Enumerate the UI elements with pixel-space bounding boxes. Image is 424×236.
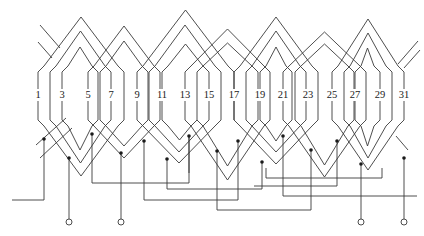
coil-end-connections-bottom [38, 120, 404, 180]
junction-dot-2 [90, 132, 94, 136]
coil-bottom-8 [185, 120, 270, 180]
stub-line-0 [40, 25, 60, 48]
coil-top-5 [137, 10, 234, 120]
coil-bottom-1 [50, 120, 111, 163]
terminal-1 [118, 219, 124, 225]
coil-top-11 [246, 31, 306, 120]
stub-line-3 [404, 50, 420, 68]
junction-dot-9 [260, 160, 264, 164]
slot-label: 19 [254, 89, 267, 101]
slot-label: 13 [179, 89, 192, 101]
junction-dot-5 [165, 157, 169, 161]
terminals [66, 219, 407, 225]
phase-leads [12, 134, 417, 222]
lead-wire-6 [217, 150, 311, 210]
coil-bottom-10 [234, 120, 318, 164]
slot-label: 27 [349, 89, 362, 101]
slot-label: 3 [58, 89, 65, 101]
slot-label: 5 [84, 89, 91, 101]
coil-bottom-9 [197, 120, 258, 166]
coil-bottom-12 [260, 120, 292, 141]
coil-bottom-6 [149, 120, 209, 152]
stub-line-1 [38, 42, 52, 58]
slot-label: 21 [277, 89, 290, 101]
junction-dot-8 [236, 139, 240, 143]
slot-label: 25 [326, 89, 339, 101]
junction-dot-11 [309, 148, 313, 152]
slot-label: 17 [228, 89, 241, 101]
lead-wire-4 [144, 141, 238, 200]
coil-top-2 [62, 47, 98, 120]
slot-label: 29 [374, 89, 387, 101]
winding-diagram [0, 0, 424, 236]
coil-top-15 [332, 19, 404, 120]
junction-dot-4 [142, 139, 146, 143]
junction-dot-6 [187, 134, 191, 138]
coil-bottom-7 [162, 120, 197, 140]
junction-dot-3 [119, 151, 123, 155]
terminal-2 [358, 219, 364, 225]
junction-dot-10 [281, 134, 285, 138]
coil-top-10 [234, 17, 318, 120]
terminal-0 [66, 219, 72, 225]
lead-wire-0 [12, 139, 44, 200]
terminal-3 [401, 219, 407, 225]
coil-bottom-14 [295, 120, 354, 165]
slot-label: 15 [203, 89, 216, 101]
coil-top-17 [355, 48, 380, 120]
coil-top-12 [260, 47, 292, 120]
coil-end-connections-top [38, 10, 404, 120]
slot-label: 11 [156, 89, 168, 101]
junction-dot-1 [67, 156, 71, 160]
coil-bottom-5 [137, 120, 221, 163]
stub-line-6 [396, 136, 408, 150]
junction-dot-14 [402, 156, 406, 160]
slot-label: 7 [107, 89, 114, 101]
junction-dot-13 [359, 162, 363, 166]
lead-wire-5 [167, 159, 262, 189]
slot-label: 31 [398, 89, 411, 101]
junction-dot-12 [335, 139, 339, 143]
slot-label: 9 [133, 89, 140, 101]
slot-label: 23 [302, 89, 315, 101]
junction-dot-0 [42, 137, 46, 141]
coil-bottom-11 [246, 120, 306, 152]
lead-wire-8 [254, 141, 337, 186]
junction-dot-7 [215, 149, 219, 153]
slot-label: 1 [34, 89, 41, 101]
lead-wire-7 [283, 136, 417, 196]
stub-line-2 [398, 41, 418, 64]
